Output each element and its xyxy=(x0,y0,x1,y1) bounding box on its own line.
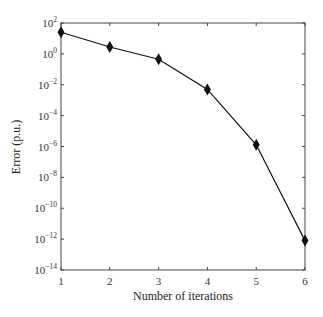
diamond-marker xyxy=(155,53,162,65)
y-tick-label: 10−14 xyxy=(34,262,57,276)
x-tick-label: 6 xyxy=(302,275,308,287)
x-tick-label: 4 xyxy=(205,275,211,287)
y-tick-label: 10−12 xyxy=(34,231,57,245)
data-series xyxy=(58,26,309,246)
diamond-marker xyxy=(58,26,65,38)
y-tick-label: 10−2 xyxy=(38,77,57,91)
x-tick-label: 3 xyxy=(156,275,162,287)
y-axis-title: Error (p.u.) xyxy=(9,120,23,174)
plot-frame xyxy=(61,23,305,270)
x-tick-label: 2 xyxy=(107,275,113,287)
y-tick-label: 10−4 xyxy=(38,108,57,122)
y-tick-label: 100 xyxy=(42,46,57,60)
x-tick-label: 5 xyxy=(253,275,259,287)
series-line xyxy=(61,32,305,240)
x-tick-label: 1 xyxy=(58,275,64,287)
y-tick-label: 10−8 xyxy=(38,169,57,183)
y-tick-label: 10−6 xyxy=(38,139,57,153)
y-tick-label: 10−10 xyxy=(34,200,57,214)
diamond-marker xyxy=(106,41,113,53)
y-tick-label: 102 xyxy=(42,15,57,29)
x-axis-title: Number of iterations xyxy=(133,289,233,303)
plot-axes: 12345610210010−210−410−610−810−1010−1210… xyxy=(34,15,308,287)
diamond-marker xyxy=(204,83,211,95)
error-convergence-chart: 12345610210010−210−410−610−810−1010−1210… xyxy=(0,0,323,317)
